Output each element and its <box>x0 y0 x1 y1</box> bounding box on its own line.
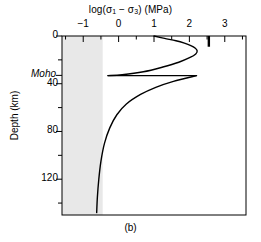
x-tick-label: 2 <box>177 18 201 29</box>
shaded-weak-field <box>62 36 103 215</box>
y-tick-label: 80 <box>14 124 58 135</box>
data-curves <box>97 36 198 213</box>
y-tick-label: 120 <box>14 172 58 183</box>
x-tick-label: 1 <box>142 18 166 29</box>
figure-caption: (b) <box>0 222 261 233</box>
figure-panel-b: log(σ1 − σ3) (MPa) Depth (km) −10123 040… <box>0 0 261 242</box>
x-tick-label: 3 <box>213 18 237 29</box>
x-tick-label: −1 <box>71 18 95 29</box>
y-tick-label-moho: Moho <box>10 68 56 79</box>
x-tick-label: 0 <box>107 18 131 29</box>
y-tick-label: 0 <box>14 29 58 40</box>
